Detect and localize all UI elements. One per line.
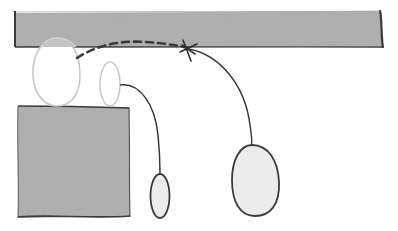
- left-block: [18, 106, 130, 218]
- large-dark-oval: [232, 145, 279, 216]
- faded-small-oval: [100, 62, 120, 106]
- solid-connector-right: [189, 49, 252, 145]
- small-dark-oval: [151, 174, 170, 218]
- diagram-canvas: [0, 0, 398, 231]
- faded-large-oval: [33, 38, 80, 106]
